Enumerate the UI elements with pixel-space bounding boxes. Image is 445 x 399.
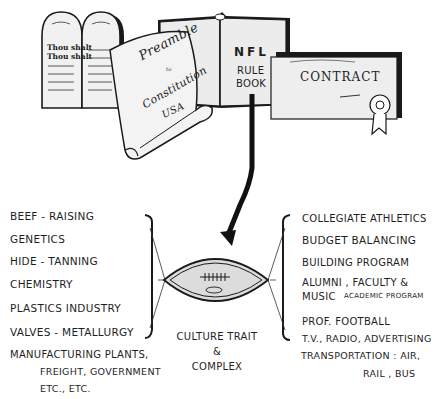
right-item-alumni-faculty: ALUMNI , FACULTY & <box>302 277 408 288</box>
contract-icon <box>271 52 402 134</box>
right-item-tv-radio: T.V., RADIO, ADVERTISING <box>302 333 432 344</box>
right-item-music: MUSIC <box>302 291 336 302</box>
book-title-nfl: NFL <box>234 45 269 59</box>
caption-ampersand: & <box>157 346 277 357</box>
left-item-chemistry: CHEMISTRY <box>10 278 73 290</box>
left-item-valves: VALVES - METALLURGY <box>10 326 134 338</box>
svg-text:Thou shalt: Thou shalt <box>47 52 92 61</box>
caption-culture-trait: CULTURE TRAIT <box>157 331 277 342</box>
contract-title: CONTRACT <box>300 70 380 84</box>
caption-complex: COMPLEX <box>157 361 277 372</box>
left-manufacturing-line3: ETC., ETC. <box>40 383 91 394</box>
right-item-transportation: TRANSPORTATION : AIR, <box>301 350 420 361</box>
right-item-budget-balancing: BUDGET BALANCING <box>302 234 416 246</box>
left-item-plastics: PLASTICS INDUSTRY <box>10 302 121 314</box>
right-item-building-program: BUILDING PROGRAM <box>302 257 409 268</box>
left-manufacturing-line2: FREIGHT, GOVERNMENT <box>40 366 161 377</box>
left-manufacturing-line1: MANUFACTURING PLANTS, <box>10 349 149 360</box>
right-item-collegiate-athletics: COLLEGIATE ATHLETICS <box>302 213 427 224</box>
right-item-academic-program: ACADEMIC PROGRAM <box>344 292 424 300</box>
left-bracket-icon <box>145 215 165 338</box>
left-item-genetics: GENETICS <box>10 233 65 245</box>
right-item-prof-football: PROF. FOOTBALL <box>302 316 390 327</box>
connector-arrow-icon <box>228 94 252 235</box>
svg-text:Thou shalt: Thou shalt <box>47 43 92 52</box>
scroll-to: to <box>166 66 172 72</box>
left-item-beef-raising: BEEF - RAISING <box>10 210 94 222</box>
book-title-rule: RULE <box>237 65 264 76</box>
right-item-rail-bus: RAIL , BUS <box>363 368 415 379</box>
left-item-hide-tanning: HIDE - TANNING <box>10 255 98 267</box>
football-icon <box>164 259 268 301</box>
book-title-book: BOOK <box>236 78 266 89</box>
right-bracket-icon <box>268 215 290 340</box>
